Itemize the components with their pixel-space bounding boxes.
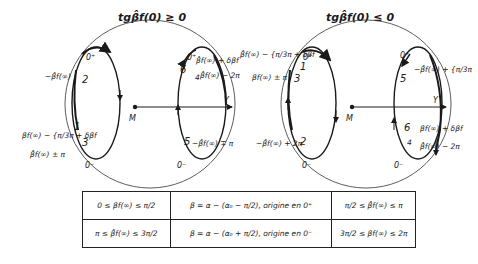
y-axis-label-right: Y (433, 96, 439, 105)
point-0plus-right: 0⁺ (187, 53, 196, 62)
table-cell: π/2 ≤ β̂f(∞) ≤ π (332, 192, 416, 220)
number-1-r: 1 (300, 61, 306, 72)
label-beta-minus-2pi: β̂f(∞) − 2π (200, 71, 240, 80)
number-2: 2 (82, 74, 88, 85)
label-r-beta-pm-pi: βf(∞) ± π (252, 73, 288, 82)
label-r-beta-pi-3pi: β̂f(∞) − {π/3π + δβf (240, 50, 316, 59)
table-cell: β = α − (α₀ − π/2), origine en 0⁺ (170, 192, 332, 220)
label-beta-plus-delta: β̂f(∞) + δβf (196, 56, 240, 65)
point-0minus-right-r: 0⁻ (394, 161, 403, 170)
point-0minus-left: 0⁻ (85, 161, 94, 170)
label-r-beta-plus-2pi: −β̂f(∞) + 2π (256, 139, 303, 148)
origin-label-right: M (346, 114, 353, 123)
y-axis-label-left: Y (224, 96, 230, 105)
diagram-left: tgβ̂f(0) ≥ 0 Y M 0⁺ 0⁺ 0⁻ 0⁻ 1 2 3 5 6 4… (22, 10, 240, 188)
table-row: π ≤ β̂f(∞) ≤ 3π/2 β = α − (α₀ + π/2), or… (83, 220, 416, 248)
label-r-beta-minus-2pi: β̂f(∞) − 2π (420, 142, 460, 151)
label-beta-pi-3pi: βf(∞) − {π/3π + δβf (22, 131, 98, 140)
point-0plus-right-r: 0⁺ (400, 51, 409, 60)
origin-label-left: M (129, 114, 136, 123)
number-5-r: 5 (400, 73, 406, 84)
diagram-right: tgβ̂f(0) ≤ 0 Y M 0⁺ 0⁺ 0⁻ 0⁻ 1 3 2 5 6 4… (240, 10, 472, 188)
condition-table: 0 ≤ βf(∞) ≤ π/2 β = α − (α₀ − π/2), orig… (82, 191, 416, 248)
label-beta-pm-pi: β̂f(∞) ± π (30, 150, 66, 159)
point-0plus-left: 0⁺ (86, 53, 95, 62)
label-r-beta-plus-delta: βf(∞) + δβf (420, 124, 464, 133)
number-4-r: 4 (407, 138, 412, 147)
number-6-r: 6 (404, 122, 410, 133)
table-cell: 0 ≤ βf(∞) ≤ π/2 (83, 192, 171, 220)
label-beta-neg: −β̂f(∞) (45, 72, 71, 81)
table-cell: π ≤ β̂f(∞) ≤ 3π/2 (83, 220, 171, 248)
number-6: 6 (180, 64, 186, 75)
point-0minus-left-r: 0⁻ (302, 161, 311, 170)
table-row: 0 ≤ βf(∞) ≤ π/2 β = α − (α₀ − π/2), orig… (83, 192, 416, 220)
figure-diagrams: tgβ̂f(0) ≥ 0 Y M 0⁺ 0⁺ 0⁻ 0⁻ 1 2 3 5 6 4… (0, 0, 478, 190)
inner-loop-left-a (72, 47, 120, 159)
diagram-left-title: tgβ̂f(0) ≥ 0 (118, 10, 186, 24)
number-3-r: 3 (294, 73, 300, 84)
table-cell: β = α − (α₀ + π/2), origine en 0⁻ (170, 220, 332, 248)
point-0minus-right: 0⁻ (177, 161, 186, 170)
label-r-beta-neg-pi-3pi: −β̂f(∞) + {π/3π (414, 65, 472, 74)
table-cell: 3π/2 ≤ βf(∞) ≤ 2π (332, 220, 416, 248)
label-beta-mp-pi: −β̂f(∞) ∓ π (192, 139, 234, 148)
number-5: 5 (184, 136, 190, 147)
